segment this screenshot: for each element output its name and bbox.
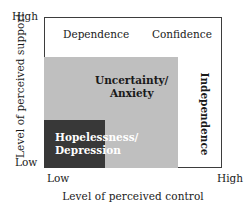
x-axis-tick-low: Low [47, 172, 69, 184]
region-label-confidence: Confidence [152, 28, 212, 40]
region-label-hopelessness-line1: Hopelessness/ [55, 131, 138, 144]
y-axis-tick-low: Low [15, 156, 37, 168]
y-axis-title: Level of perceived support [14, 18, 26, 158]
x-axis-tick-high: High [217, 172, 243, 184]
region-label-dependence: Dependence [63, 28, 129, 40]
region-label-uncertainty-line2: Anxiety [95, 87, 168, 100]
quadrant-diagram: Level of perceived support Level of perc… [0, 0, 245, 206]
region-label-uncertainty-line1: Uncertainty/ [95, 74, 168, 87]
y-axis-tick-high: High [12, 10, 38, 22]
region-label-hopelessness-depression: Hopelessness/ Depression [55, 131, 138, 157]
region-label-hopelessness-line2: Depression [55, 144, 138, 157]
x-axis-title: Level of perceived control [44, 190, 222, 202]
region-label-independence: Independence [199, 59, 211, 169]
region-label-uncertainty-anxiety: Uncertainty/ Anxiety [95, 74, 168, 100]
